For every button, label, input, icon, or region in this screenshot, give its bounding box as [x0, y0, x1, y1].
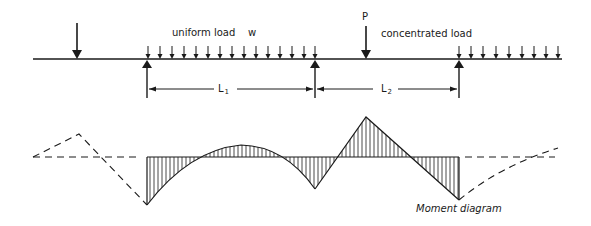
dimension-lines: [149, 87, 457, 92]
support-reaction-2: [310, 60, 320, 98]
span1-dimension: [149, 87, 313, 92]
uniform-load-arrowheads-span1: [146, 54, 318, 59]
beam-diagram: [0, 0, 591, 226]
moment-diagram-caption: Moment diagram: [416, 204, 502, 214]
support-reaction-3: [454, 60, 464, 98]
uniform-load-label: uniform load: [172, 28, 235, 38]
support-reactions: [142, 60, 464, 98]
uniform-load-arrowheads-overhang: [457, 54, 561, 59]
dashed-curve-left: [33, 134, 147, 205]
moment-dashed-extensions: [33, 134, 558, 205]
concentrated-load-symbol: P: [362, 12, 368, 22]
span2-label: L2: [381, 84, 392, 96]
dashed-curve-right: [459, 148, 558, 200]
concentrated-load-arrow: [361, 26, 371, 59]
support-reaction-1: [142, 60, 152, 98]
uniform-load-symbol: w: [248, 28, 256, 38]
moment-diagram: [147, 117, 459, 205]
span1-label: L1: [218, 84, 229, 96]
left-point-load-arrow: [72, 23, 82, 59]
concentrated-load-label: concentrated load: [381, 29, 472, 39]
